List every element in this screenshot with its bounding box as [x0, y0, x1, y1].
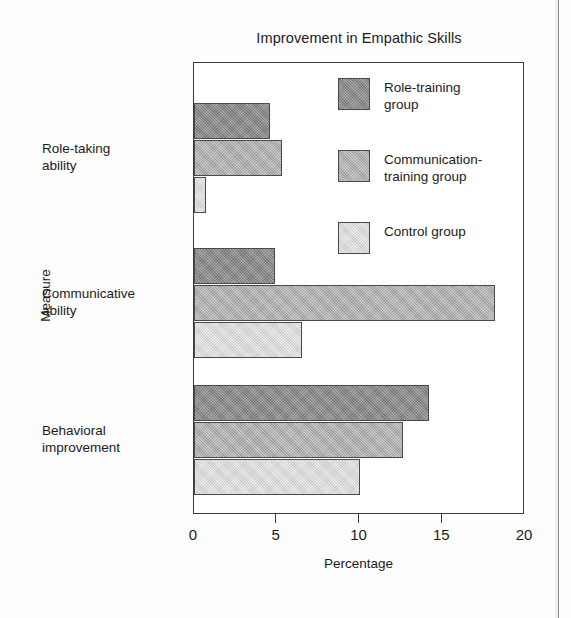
legend-swatch — [338, 222, 370, 254]
x-tick — [275, 514, 276, 523]
category-label-role-taking: Role-taking ability — [42, 140, 187, 174]
legend-label: Control group — [384, 222, 466, 240]
bar — [194, 285, 495, 321]
legend-label: Communication- training group — [384, 150, 482, 185]
bar — [194, 248, 275, 284]
bar — [194, 422, 403, 458]
chart-title: Improvement in Empathic Skills — [193, 30, 525, 46]
legend-label: Role-training group — [384, 78, 461, 113]
chart-figure: Improvement in Empathic Skills Measure R… — [0, 0, 556, 618]
bar — [194, 140, 282, 176]
x-tick — [441, 514, 442, 523]
plot-frame — [193, 62, 524, 514]
legend-swatch — [338, 150, 370, 182]
legend-swatch — [338, 78, 370, 110]
legend-item: Role-training group — [338, 78, 461, 113]
x-tick-label: 20 — [516, 526, 533, 543]
x-tick — [358, 514, 359, 523]
bar — [194, 103, 270, 139]
legend-item: Control group — [338, 222, 466, 254]
legend-item: Communication- training group — [338, 150, 482, 185]
category-label-behavioral: Behavioral improvement — [42, 422, 187, 456]
bar — [194, 385, 429, 421]
x-tick-label: 15 — [433, 526, 450, 543]
category-label-communicative: Communicative ability — [42, 285, 187, 319]
x-axis-title: Percentage — [193, 556, 524, 571]
bar — [194, 177, 206, 213]
x-tick-label: 10 — [350, 526, 367, 543]
bar — [194, 322, 302, 358]
x-tick-label: 5 — [272, 526, 280, 543]
plot-area — [194, 63, 523, 513]
page-edge-line — [558, 0, 559, 618]
x-tick-label: 0 — [189, 526, 197, 543]
bar — [194, 459, 360, 495]
